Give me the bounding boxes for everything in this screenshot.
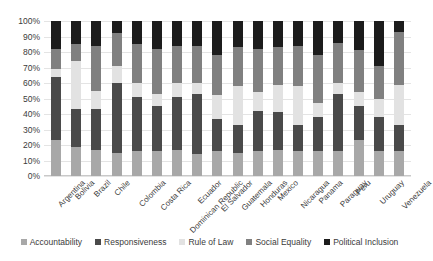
bar-segment[interactable] — [333, 43, 343, 83]
bar-segment[interactable] — [233, 86, 243, 125]
bar-segment[interactable] — [313, 151, 323, 176]
bar-segment[interactable] — [91, 150, 101, 176]
bar-segment[interactable] — [172, 150, 182, 176]
bar-column[interactable] — [328, 21, 348, 176]
bar-segment[interactable] — [192, 154, 202, 176]
bar-segment[interactable] — [172, 97, 182, 150]
bar-segment[interactable] — [51, 77, 61, 141]
bar-column[interactable] — [248, 21, 268, 176]
bar-column[interactable] — [167, 21, 187, 176]
bar-segment[interactable] — [132, 97, 142, 151]
bar-segment[interactable] — [132, 21, 142, 44]
stacked-bar[interactable] — [313, 21, 323, 176]
legend-item[interactable]: Rule of Law — [179, 238, 233, 247]
stacked-bar[interactable] — [394, 21, 404, 176]
bar-segment[interactable] — [293, 125, 303, 151]
bar-segment[interactable] — [293, 46, 303, 86]
stacked-bar[interactable] — [112, 21, 122, 176]
bar-segment[interactable] — [233, 21, 243, 47]
bar-segment[interactable] — [273, 21, 283, 47]
stacked-bar[interactable] — [152, 21, 162, 176]
legend-item[interactable]: Social Equality — [246, 238, 311, 247]
bar-column[interactable] — [369, 21, 389, 176]
stacked-bar[interactable] — [374, 21, 384, 176]
bar-segment[interactable] — [394, 21, 404, 32]
bar-segment[interactable] — [192, 83, 202, 94]
bar-segment[interactable] — [91, 21, 101, 46]
legend-item[interactable]: Political Inclusion — [324, 238, 398, 247]
bar-segment[interactable] — [394, 125, 404, 151]
bar-segment[interactable] — [112, 21, 122, 33]
legend-item[interactable]: Responsiveness — [95, 238, 166, 247]
bar-segment[interactable] — [71, 109, 81, 146]
bar-segment[interactable] — [293, 21, 303, 46]
bar-segment[interactable] — [91, 109, 101, 149]
bar-segment[interactable] — [51, 140, 61, 176]
bar-column[interactable] — [389, 21, 409, 176]
bar-column[interactable] — [228, 21, 248, 176]
bar-segment[interactable] — [233, 153, 243, 176]
bar-segment[interactable] — [293, 151, 303, 176]
bar-segment[interactable] — [192, 46, 202, 83]
bar-segment[interactable] — [354, 21, 364, 50]
bar-segment[interactable] — [253, 92, 263, 111]
bar-segment[interactable] — [374, 151, 384, 176]
bar-segment[interactable] — [192, 94, 202, 154]
bar-segment[interactable] — [374, 117, 384, 151]
bar-segment[interactable] — [313, 55, 323, 103]
stacked-bar[interactable] — [71, 21, 81, 176]
bar-segment[interactable] — [152, 106, 162, 151]
bar-segment[interactable] — [253, 111, 263, 151]
bar-segment[interactable] — [91, 91, 101, 110]
bar-segment[interactable] — [212, 95, 222, 118]
bar-segment[interactable] — [212, 119, 222, 152]
bar-segment[interactable] — [394, 32, 404, 85]
bar-segment[interactable] — [71, 147, 81, 176]
bar-segment[interactable] — [273, 112, 283, 149]
stacked-bar[interactable] — [354, 21, 364, 176]
bar-segment[interactable] — [333, 94, 343, 151]
stacked-bar[interactable] — [51, 21, 61, 176]
bar-segment[interactable] — [273, 150, 283, 176]
bar-segment[interactable] — [354, 50, 364, 92]
stacked-bar[interactable] — [91, 21, 101, 176]
bar-segment[interactable] — [313, 103, 323, 117]
bar-segment[interactable] — [132, 44, 142, 83]
bar-column[interactable] — [127, 21, 147, 176]
bar-segment[interactable] — [71, 44, 81, 61]
bar-segment[interactable] — [313, 117, 323, 151]
bar-segment[interactable] — [253, 151, 263, 176]
bar-segment[interactable] — [172, 46, 182, 83]
bar-segment[interactable] — [172, 21, 182, 46]
bar-segment[interactable] — [71, 61, 81, 109]
bar-segment[interactable] — [132, 151, 142, 176]
stacked-bar[interactable] — [212, 21, 222, 176]
bar-segment[interactable] — [112, 33, 122, 66]
bar-segment[interactable] — [192, 21, 202, 46]
bar-segment[interactable] — [152, 49, 162, 94]
stacked-bar[interactable] — [253, 21, 263, 176]
stacked-bar[interactable] — [172, 21, 182, 176]
bar-column[interactable] — [349, 21, 369, 176]
bar-segment[interactable] — [233, 125, 243, 153]
bar-segment[interactable] — [354, 92, 364, 106]
bar-segment[interactable] — [354, 140, 364, 176]
bar-segment[interactable] — [374, 66, 384, 99]
bar-segment[interactable] — [333, 21, 343, 43]
bar-column[interactable] — [86, 21, 106, 176]
bar-segment[interactable] — [333, 151, 343, 176]
bar-segment[interactable] — [354, 106, 364, 140]
bar-segment[interactable] — [51, 21, 61, 49]
bar-segment[interactable] — [273, 47, 283, 84]
stacked-bar[interactable] — [132, 21, 142, 176]
bar-column[interactable] — [107, 21, 127, 176]
bar-segment[interactable] — [212, 151, 222, 176]
bar-segment[interactable] — [253, 49, 263, 92]
bar-segment[interactable] — [273, 85, 283, 113]
legend-item[interactable]: Accountability — [21, 238, 82, 247]
bar-segment[interactable] — [374, 99, 384, 118]
stacked-bar[interactable] — [293, 21, 303, 176]
bar-column[interactable] — [308, 21, 328, 176]
bar-segment[interactable] — [394, 151, 404, 176]
bar-segment[interactable] — [313, 21, 323, 55]
